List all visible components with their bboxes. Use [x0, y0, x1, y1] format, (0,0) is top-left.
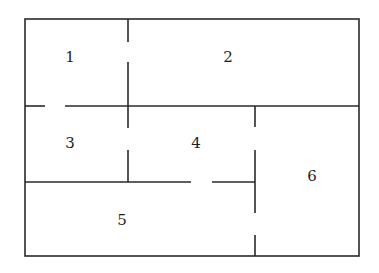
room-label-2: 2: [223, 48, 233, 66]
floor-plan-diagram: 1 2 3 4 5 6: [0, 0, 379, 273]
room-label-1: 1: [65, 48, 75, 66]
room-label-3: 3: [65, 134, 75, 152]
room-label-6: 6: [307, 167, 317, 185]
room-label-4: 4: [191, 134, 201, 152]
room-label-5: 5: [117, 211, 127, 229]
